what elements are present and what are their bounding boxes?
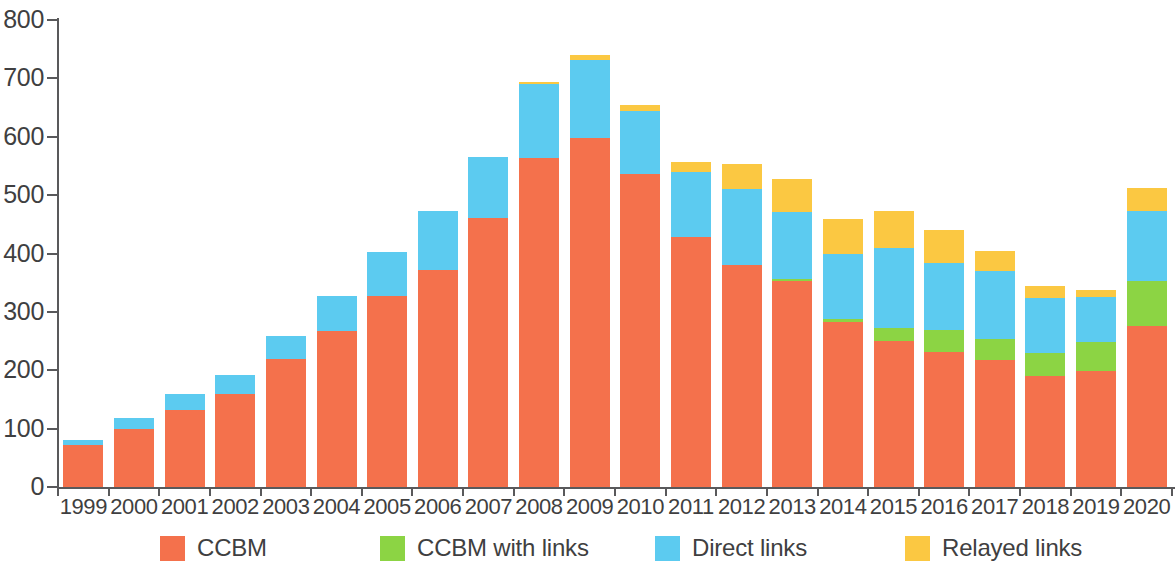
- y-axis-label: 300: [0, 299, 44, 324]
- bar-segment-direct-links: [367, 252, 407, 296]
- bar-2001: [165, 394, 205, 487]
- x-axis-label-2013: 2013: [764, 495, 820, 519]
- x-axis-label-2018: 2018: [1017, 495, 1073, 519]
- bar-segment-ccbm: [367, 296, 407, 487]
- y-axis-label: 600: [0, 124, 44, 149]
- x-axis-label-2011: 2011: [663, 495, 719, 519]
- bar-segment-ccbm: [1127, 326, 1167, 487]
- legend-label: Direct links: [692, 535, 807, 561]
- x-axis-label-2020: 2020: [1119, 495, 1175, 519]
- y-axis-label: 500: [0, 182, 44, 207]
- y-axis-label: 200: [0, 357, 44, 382]
- bar-segment-ccbm: [215, 394, 255, 487]
- bar-segment-ccbm: [570, 138, 610, 487]
- bar-segment-ccbm: [63, 445, 103, 487]
- bar-2009: [570, 55, 610, 487]
- bar-segment-direct-links: [165, 394, 205, 410]
- x-axis-label-2015: 2015: [866, 495, 922, 519]
- bar-segment-ccbm-with-links: [924, 330, 964, 352]
- y-axis-label: 800: [0, 7, 44, 32]
- bar-segment-relayed-links: [823, 219, 863, 254]
- bar-segment-relayed-links: [924, 230, 964, 263]
- x-axis-label-2009: 2009: [562, 495, 618, 519]
- chart-legend: CCBMCCBM with linksDirect linksRelayed l…: [0, 535, 1175, 575]
- bar-segment-ccbm: [418, 270, 458, 487]
- bar-2008: [519, 82, 559, 487]
- bar-segment-direct-links: [772, 212, 812, 279]
- bar-2005: [367, 252, 407, 487]
- bar-segment-ccbm: [823, 322, 863, 487]
- y-axis-label: 700: [0, 65, 44, 90]
- legend-item-ccbm[interactable]: CCBM: [160, 535, 267, 561]
- bar-2018: [1025, 286, 1065, 487]
- bar-2002: [215, 375, 255, 487]
- y-axis-label: 400: [0, 241, 44, 266]
- bar-segment-direct-links: [874, 248, 914, 328]
- bar-2012: [722, 164, 762, 487]
- bar-2017: [975, 251, 1015, 487]
- y-axis-tick: [47, 311, 57, 313]
- bar-segment-relayed-links: [1076, 290, 1116, 298]
- bar-2015: [874, 211, 914, 487]
- bar-segment-relayed-links: [1025, 286, 1065, 299]
- x-axis-label-2005: 2005: [359, 495, 415, 519]
- y-axis-tick: [47, 369, 57, 371]
- bar-segment-ccbm-with-links: [1127, 281, 1167, 327]
- y-axis-tick: [47, 77, 57, 79]
- bar-segment-ccbm: [1025, 376, 1065, 487]
- bar-segment-ccbm: [924, 352, 964, 487]
- bar-segment-ccbm: [772, 281, 812, 487]
- legend-label: CCBM: [197, 535, 267, 561]
- bar-segment-direct-links: [215, 375, 255, 394]
- bar-segment-relayed-links: [874, 211, 914, 248]
- bar-segment-direct-links: [620, 111, 660, 174]
- bar-segment-direct-links: [317, 296, 357, 332]
- legend-swatch-icon: [380, 536, 405, 561]
- bar-2014: [823, 219, 863, 487]
- bar-segment-ccbm: [620, 174, 660, 487]
- x-axis-label-2017: 2017: [967, 495, 1023, 519]
- bar-segment-ccbm: [519, 158, 559, 487]
- x-axis-label-2010: 2010: [612, 495, 668, 519]
- bar-segment-ccbm: [468, 218, 508, 487]
- bar-segment-relayed-links: [722, 164, 762, 189]
- x-axis-label-2007: 2007: [460, 495, 516, 519]
- legend-label: Relayed links: [942, 535, 1082, 561]
- bar-segment-ccbm: [1076, 371, 1116, 487]
- bar-segment-ccbm-with-links: [1025, 353, 1065, 376]
- x-axis-label-1999: 1999: [55, 495, 111, 519]
- bar-segment-relayed-links: [975, 251, 1015, 271]
- bar-segment-direct-links: [519, 84, 559, 158]
- x-axis-label-2002: 2002: [207, 495, 263, 519]
- bar-2010: [620, 105, 660, 487]
- bar-2003: [266, 336, 306, 487]
- y-axis-tick: [47, 428, 57, 430]
- bar-segment-ccbm: [671, 237, 711, 487]
- x-axis-label-2004: 2004: [309, 495, 365, 519]
- plot-area: [58, 20, 1172, 487]
- x-axis-label-2019: 2019: [1068, 495, 1124, 519]
- bar-segment-direct-links: [1127, 211, 1167, 281]
- legend-item-ccbm-with-links[interactable]: CCBM with links: [380, 535, 589, 561]
- y-axis-tick: [47, 194, 57, 196]
- bar-2013: [772, 179, 812, 487]
- bar-segment-direct-links: [114, 418, 154, 429]
- bar-segment-ccbm: [165, 410, 205, 487]
- bar-segment-ccbm-with-links: [1076, 342, 1116, 371]
- bar-segment-ccbm-with-links: [874, 328, 914, 341]
- bar-segment-relayed-links: [772, 179, 812, 212]
- x-axis-label-2016: 2016: [916, 495, 972, 519]
- x-axis-label-2006: 2006: [410, 495, 466, 519]
- bar-segment-direct-links: [975, 271, 1015, 339]
- bar-segment-ccbm: [266, 359, 306, 487]
- x-axis-label-2001: 2001: [157, 495, 213, 519]
- bar-segment-direct-links: [1025, 298, 1065, 352]
- x-axis-label-2008: 2008: [511, 495, 567, 519]
- bar-2004: [317, 296, 357, 487]
- stacked-bar-chart: 0100200300400500600700800 19992000200120…: [0, 0, 1175, 575]
- legend-item-direct-links[interactable]: Direct links: [655, 535, 807, 561]
- legend-swatch-icon: [160, 536, 185, 561]
- bar-segment-direct-links: [266, 336, 306, 359]
- legend-item-relayed-links[interactable]: Relayed links: [905, 535, 1082, 561]
- y-axis-tick: [47, 19, 57, 21]
